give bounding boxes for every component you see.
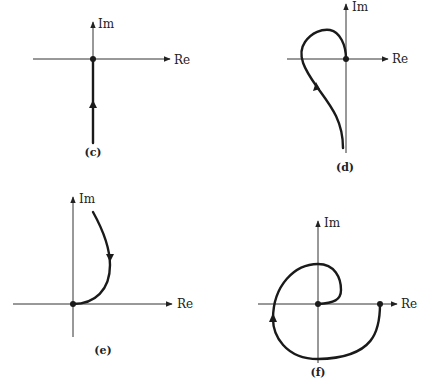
panel-caption: (d) bbox=[336, 161, 354, 174]
im-axis-label: Im bbox=[79, 192, 96, 206]
origin-point bbox=[343, 56, 349, 62]
panel-caption: (f) bbox=[310, 366, 325, 379]
re-axis-label: Re bbox=[401, 297, 417, 311]
locus-curve bbox=[273, 264, 380, 359]
direction-arrow-icon bbox=[269, 313, 277, 322]
panel-f: Re Im (f) bbox=[258, 216, 417, 379]
re-axis-label: Re bbox=[392, 52, 408, 66]
locus-curve bbox=[301, 30, 346, 148]
im-axis-label: Im bbox=[98, 17, 115, 31]
nyquist-diagram-figure: Re Im (c) Re Im (d) Re Im (e) Re Im bbox=[0, 0, 422, 380]
panel-caption: (e) bbox=[94, 344, 111, 357]
panel-d: Re Im (d) bbox=[287, 0, 408, 174]
im-axis-label: Im bbox=[324, 216, 341, 230]
origin-point bbox=[70, 301, 76, 307]
panel-e: Re Im (e) bbox=[13, 192, 193, 357]
locus-curve bbox=[73, 212, 110, 304]
im-axis-label: Im bbox=[352, 0, 369, 14]
panel-c: Re Im (c) bbox=[33, 17, 190, 159]
re-axis-label: Re bbox=[174, 53, 190, 67]
origin-point bbox=[90, 56, 96, 62]
panel-caption: (c) bbox=[84, 146, 101, 159]
direction-arrow-icon bbox=[89, 100, 97, 108]
re-axis-label: Re bbox=[177, 297, 193, 311]
start-point bbox=[377, 301, 383, 307]
direction-arrow-icon bbox=[106, 254, 114, 262]
origin-point bbox=[315, 301, 321, 307]
